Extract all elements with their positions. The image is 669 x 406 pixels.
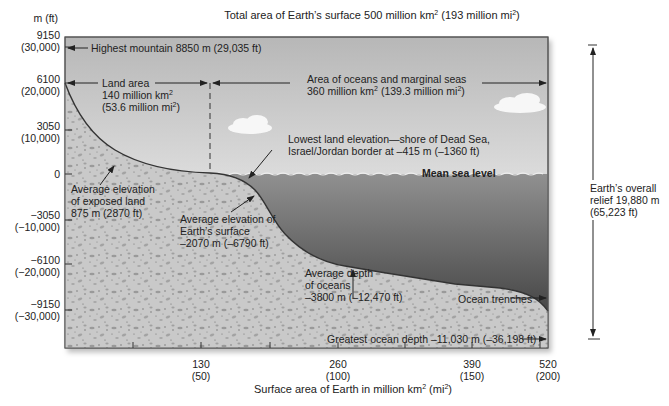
y-tick-label: 6100(20,000) xyxy=(0,73,60,97)
greatest-depth-label: Greatest ocean depth –11,030 m (–36,198 … xyxy=(327,333,536,345)
x-tick-label: 130(50) xyxy=(181,358,221,382)
overall-relief-label: Earth’s overall relief 19,880 m (65,223 … xyxy=(590,182,659,218)
avg-earth-surface-label: Average elevation of Earth’s surface –20… xyxy=(180,213,276,249)
y-axis-unit-label: m (ft) xyxy=(0,12,58,24)
y-tick-label: 0 xyxy=(0,168,60,180)
x-tick-label: 520(200) xyxy=(528,358,568,382)
avg-ocean-depth-label: Average depth of oceans –3800 m (–12,470… xyxy=(305,267,402,303)
land-area-label: Land area 140 million km2 (53.6 million … xyxy=(102,77,180,113)
x-tick-label: 390(150) xyxy=(452,358,492,382)
y-tick-label: −3050(−10,000) xyxy=(0,209,60,233)
y-tick-label: −9150(−30,000) xyxy=(0,298,60,322)
avg-exposed-land-label: Average elevation of exposed land 875 m … xyxy=(71,183,155,219)
mean-sea-level-label: Mean sea level xyxy=(422,167,496,179)
x-axis-label: Surface area of Earth in million km2 (mi… xyxy=(254,383,452,395)
lowest-land-label: Lowest land elevation—shore of Dead Sea,… xyxy=(288,133,490,157)
y-tick-label: 9150(30,000) xyxy=(0,29,60,53)
y-tick-label: 3050(10,000) xyxy=(0,120,60,144)
y-tick-label: −6100(−20,000) xyxy=(0,254,60,278)
ocean-trenches-label: Ocean trenches xyxy=(458,293,532,305)
ocean-area-label: Area of oceans and marginal seas 360 mil… xyxy=(307,73,466,97)
chart-title: Total area of Earth’s surface 500 millio… xyxy=(222,9,522,21)
x-tick-label: 260(100) xyxy=(318,358,358,382)
highest-mountain-label: Highest mountain 8850 m (29,035 ft) xyxy=(91,42,261,54)
